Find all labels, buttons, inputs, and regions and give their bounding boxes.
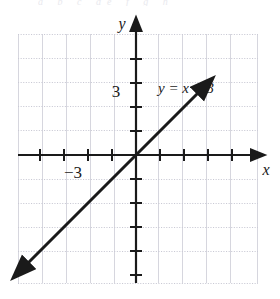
x-axis-label: x xyxy=(261,161,269,178)
y-axis-label: y xyxy=(116,15,126,33)
plotted-line-y-equals-x-plus-3 xyxy=(26,91,200,265)
graph-figure: a b c de f g h xyxy=(0,0,280,299)
coordinate-plane: 3 −3 x y y = x + 3 xyxy=(0,0,280,299)
equation-label: y = x + 3 xyxy=(156,80,214,96)
grid-vertical-lines xyxy=(19,34,258,283)
grid-horizontal-lines xyxy=(18,35,258,284)
y-intercept-label: 3 xyxy=(112,82,121,101)
x-intercept-label: −3 xyxy=(64,163,82,182)
